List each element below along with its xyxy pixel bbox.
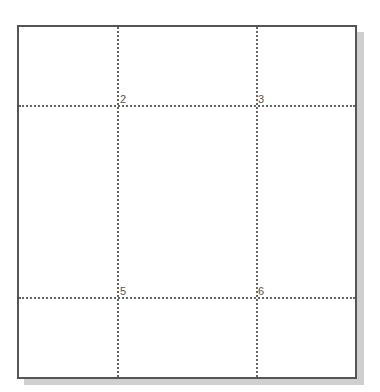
- grid-frame: 2 3 5 6: [17, 25, 357, 379]
- intersection-label-3: 3: [258, 94, 264, 105]
- vertical-gridline-1: [117, 27, 119, 377]
- intersection-label-5: 5: [120, 286, 126, 297]
- intersection-label-2: 2: [120, 94, 126, 105]
- vertical-gridline-2: [256, 27, 258, 377]
- horizontal-gridline-1: [19, 105, 355, 107]
- intersection-label-6: 6: [258, 286, 264, 297]
- horizontal-gridline-2: [19, 297, 355, 299]
